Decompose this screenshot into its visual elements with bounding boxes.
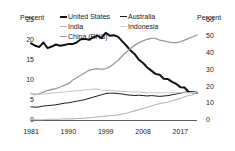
legend-item[interactable]: India [60, 22, 110, 31]
legend-label: India [68, 22, 83, 31]
legend-column: AustraliaIndonesia [120, 12, 158, 41]
legend-item[interactable]: United States [60, 12, 110, 21]
legend-swatch-icon [60, 16, 67, 18]
legend-item[interactable]: China (RHS) [60, 32, 110, 41]
legend-column: United StatesIndiaChina (RHS) [60, 12, 110, 41]
legend-swatch-icon [60, 26, 67, 27]
chart-legend: United StatesIndiaChina (RHS)AustraliaIn… [60, 12, 158, 41]
series-line-india [31, 92, 197, 119]
legend-label: United States [68, 12, 110, 21]
legend-swatch-icon [60, 36, 67, 37]
legend-label: Australia [128, 12, 155, 21]
legend-label: China (RHS) [68, 32, 108, 41]
legend-label: Indonesia [128, 22, 158, 31]
legend-swatch-icon [120, 16, 127, 17]
legend-swatch-icon [120, 26, 127, 27]
series-line-australia [31, 92, 197, 108]
legend-item[interactable]: Indonesia [120, 22, 158, 31]
chart-container: Percent Percent 0510152025 0102030405060… [0, 0, 235, 151]
legend-item[interactable]: Australia [120, 12, 158, 21]
